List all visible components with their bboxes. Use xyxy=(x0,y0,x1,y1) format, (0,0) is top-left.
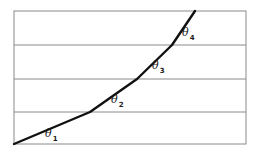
piecewise-curve xyxy=(14,11,195,144)
diagram-frame xyxy=(14,11,246,144)
label-theta-4: θ4 xyxy=(182,26,195,42)
label-theta-2: θ2 xyxy=(111,93,124,109)
angle-segments-diagram: θ1 θ2 θ3 θ4 xyxy=(0,0,257,153)
label-theta-3: θ3 xyxy=(152,59,165,75)
label-theta-1: θ1 xyxy=(45,127,58,143)
